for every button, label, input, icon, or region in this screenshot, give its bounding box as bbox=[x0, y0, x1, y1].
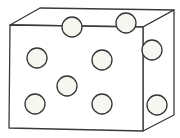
circle-right-lower bbox=[147, 95, 167, 115]
circle-front-3 bbox=[57, 76, 77, 96]
circle-top-1 bbox=[62, 17, 82, 37]
circle-front-4 bbox=[25, 94, 45, 114]
circle-front-5 bbox=[92, 94, 112, 114]
front-face bbox=[9, 25, 143, 131]
circle-right-upper bbox=[142, 40, 162, 60]
circle-front-1 bbox=[27, 48, 47, 68]
box-diagram bbox=[0, 0, 180, 138]
circle-front-2 bbox=[92, 50, 112, 70]
circle-top-2 bbox=[116, 13, 136, 33]
